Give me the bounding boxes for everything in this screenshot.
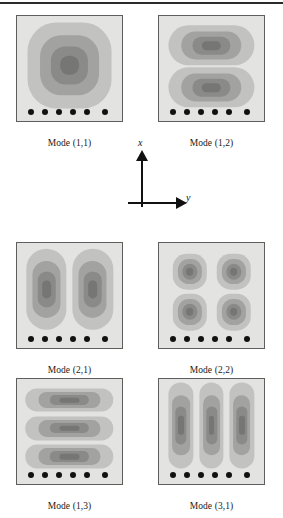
support-dot: [226, 109, 232, 115]
mode-panel-2-2: [158, 242, 265, 349]
support-dot: [212, 109, 218, 115]
contour-lobe: [26, 417, 114, 441]
support-dot: [226, 472, 232, 478]
contour-lobe: [169, 382, 194, 468]
mode-caption-1-1: Mode (1,1): [16, 138, 123, 148]
y-axis-label: y: [186, 192, 190, 203]
support-dot: [84, 472, 90, 478]
support-dot: [170, 472, 176, 478]
support-dot: [198, 109, 204, 115]
contour-level-4: [60, 454, 79, 459]
mode-caption-1-3: Mode (1,3): [16, 501, 123, 511]
support-dot: [70, 109, 76, 115]
support-dot: [244, 336, 250, 342]
support-dot: [102, 336, 108, 342]
contour-level-4: [239, 416, 244, 435]
contour-level-4: [186, 308, 194, 316]
contour-lobe: [169, 67, 255, 108]
support-dot: [102, 472, 108, 478]
support-dot: [198, 472, 204, 478]
support-dot: [244, 109, 250, 115]
coordinate-axes: x y: [118, 145, 196, 217]
support-dot: [226, 336, 232, 342]
contour-level-4: [209, 416, 214, 435]
contour-level-4: [186, 267, 194, 275]
contour-level-4: [202, 41, 221, 50]
mode-caption-2-2: Mode (2,2): [158, 365, 265, 375]
x-axis-line: [141, 159, 143, 207]
mode-panel-3-1: [158, 378, 265, 485]
contour-lobe: [172, 294, 206, 330]
mode-shapes-figure: Mode (1,1) Mode (1,2) x y Mode (2,1) Mod…: [0, 0, 283, 518]
contour-level-4: [60, 56, 78, 75]
support-dot: [170, 336, 176, 342]
support-dot-row: [17, 109, 122, 116]
support-dot: [102, 109, 108, 115]
support-dot: [28, 109, 34, 115]
contour-level-4: [42, 280, 51, 298]
x-axis-label: x: [138, 137, 142, 148]
support-dot-row: [17, 472, 122, 479]
contour-lobe: [230, 382, 255, 468]
contour-lobe: [216, 294, 250, 330]
contour-level-4: [60, 426, 79, 431]
support-dot: [56, 109, 62, 115]
support-dot: [184, 336, 190, 342]
contour-lobe: [216, 253, 250, 289]
support-dot: [170, 109, 176, 115]
contour-level-4: [230, 267, 238, 275]
support-dot: [28, 336, 34, 342]
support-dot-row: [159, 109, 264, 116]
support-dot: [42, 109, 48, 115]
support-dot: [56, 336, 62, 342]
contour-level-4: [88, 280, 97, 298]
support-dot: [42, 472, 48, 478]
contour-level-4: [60, 397, 79, 402]
contour-level-4: [230, 308, 238, 316]
mode-caption-3-1: Mode (3,1): [158, 501, 265, 511]
support-dot: [42, 336, 48, 342]
mode-caption-2-1: Mode (2,1): [16, 365, 123, 375]
support-dot: [28, 472, 34, 478]
support-dot: [70, 472, 76, 478]
support-dot: [244, 472, 250, 478]
support-dot: [84, 336, 90, 342]
support-dot: [184, 109, 190, 115]
contour-lobe: [26, 445, 114, 469]
support-dot-row: [17, 336, 122, 343]
mode-panel-1-3: [16, 378, 123, 485]
contour-level-4: [202, 83, 221, 92]
y-axis-line: [128, 202, 178, 204]
support-dot: [212, 336, 218, 342]
mode-panel-2-1: [16, 242, 123, 349]
contour-level-4: [178, 416, 183, 435]
contour-lobe: [26, 388, 114, 412]
contour-lobe: [199, 382, 224, 468]
support-dot-row: [159, 472, 264, 479]
support-dot: [70, 336, 76, 342]
support-dot: [84, 109, 90, 115]
support-dot: [198, 336, 204, 342]
mode-panel-1-1: [16, 15, 123, 122]
contour-lobe: [169, 25, 255, 66]
support-dot: [184, 472, 190, 478]
support-dot-row: [159, 336, 264, 343]
mode-panel-1-2: [158, 15, 265, 122]
contour-lobe: [26, 249, 67, 330]
contour-lobe: [28, 23, 111, 109]
contour-lobe: [172, 253, 206, 289]
support-dot: [56, 472, 62, 478]
contour-lobe: [72, 249, 113, 330]
support-dot: [212, 472, 218, 478]
